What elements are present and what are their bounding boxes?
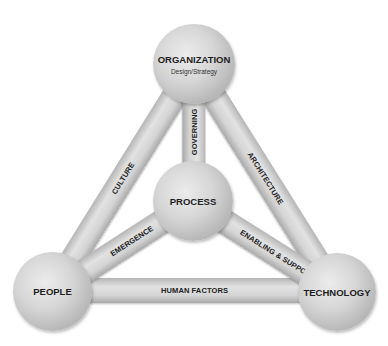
- socio-technical-diagram: CULTURE ARCHITECTURE HUMAN FACTORS GOVER…: [0, 0, 388, 346]
- human-factors-link: HUMAN FACTORS: [52, 278, 337, 303]
- technology-title: TECHNOLOGY: [303, 287, 370, 298]
- process-title: PROCESS: [170, 196, 216, 207]
- process-node: PROCESS: [153, 161, 233, 241]
- people-title: PEOPLE: [33, 286, 72, 297]
- organization-title: ORGANIZATION: [158, 54, 231, 65]
- governing-label: GOVERNING: [190, 109, 199, 156]
- organization-subtitle: Design/Strategy: [171, 68, 217, 75]
- culture-label: CULTURE: [110, 160, 137, 195]
- organization-node: ORGANIZATION Design/Strategy: [153, 24, 235, 104]
- human-factors-label: HUMAN FACTORS: [161, 286, 228, 295]
- technology-node: TECHNOLOGY: [298, 253, 376, 331]
- architecture-label: ARCHITECTURE: [246, 150, 286, 206]
- people-node: PEOPLE: [13, 252, 92, 331]
- emergence-label: EMERGENCE: [109, 223, 155, 257]
